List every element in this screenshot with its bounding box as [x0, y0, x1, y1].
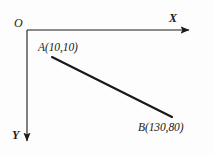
- line-segment-ab: [52, 57, 172, 117]
- y-axis-label: Y: [12, 129, 20, 141]
- coordinate-diagram: O X Y A(10,10) B(130,80): [0, 0, 213, 155]
- point-b-label: B(130,80): [138, 122, 183, 134]
- origin-label: O: [14, 17, 23, 29]
- segment-ab-group: [52, 57, 172, 117]
- point-a-label: A(10,10): [38, 42, 78, 54]
- x-axis-label: X: [169, 12, 177, 24]
